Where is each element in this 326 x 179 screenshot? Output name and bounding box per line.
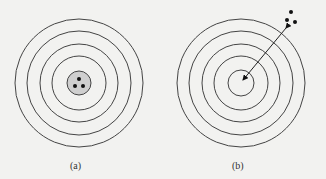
dot-icon	[285, 18, 289, 22]
target-b	[177, 19, 305, 147]
figure-canvas	[0, 0, 326, 179]
dot-icon	[289, 10, 293, 14]
ring-icon	[228, 70, 254, 96]
dot-icon	[81, 84, 85, 88]
arrow-icon	[243, 28, 286, 80]
dot-icon	[293, 20, 297, 24]
target-a	[15, 19, 143, 147]
panel-label-a: (a)	[70, 160, 81, 171]
panel-label-b: (b)	[232, 160, 244, 171]
dots-b	[285, 10, 297, 24]
dot-icon	[73, 84, 77, 88]
ring-icon	[189, 31, 293, 135]
bullseye-icon	[67, 71, 91, 95]
ring-icon	[214, 56, 268, 110]
ring-icon	[177, 19, 305, 147]
dot-icon	[77, 77, 81, 81]
